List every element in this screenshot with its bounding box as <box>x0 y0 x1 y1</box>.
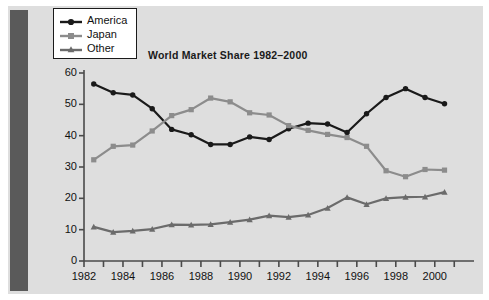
y-tick-label: 20 <box>55 191 77 203</box>
y-tick-label: 0 <box>55 254 77 266</box>
x-tick-label: 1986 <box>145 270 179 282</box>
x-tick-label: 1998 <box>379 270 413 282</box>
y-tick-label: 30 <box>55 160 77 172</box>
legend-label-other: Other <box>87 42 115 54</box>
x-tick-label: 1994 <box>301 270 335 282</box>
legend-label-japan: Japan <box>87 28 117 40</box>
x-tick-label: 1992 <box>262 270 296 282</box>
chart-title: World Market Share 1982–2000 <box>148 49 308 61</box>
y-tick-label: 40 <box>55 129 77 141</box>
figure-root: 6050403020100 19821984198619881990199219… <box>0 0 489 300</box>
legend-marker-square-icon <box>59 28 83 40</box>
legend-item-other: Other <box>59 41 131 55</box>
legend-marker-triangle-icon <box>59 42 83 54</box>
x-tick-label: 1984 <box>106 270 140 282</box>
legend-marker-circle-icon <box>59 14 83 26</box>
legend-item-japan: Japan <box>59 27 131 41</box>
x-tick-label: 2000 <box>418 270 452 282</box>
x-tick-label: 1988 <box>184 270 218 282</box>
x-tick-label: 1990 <box>223 270 257 282</box>
legend-label-america: America <box>87 14 127 26</box>
book-gutter-shadow <box>10 10 28 291</box>
y-tick-label: 60 <box>55 66 77 78</box>
y-tick-label: 10 <box>55 223 77 235</box>
y-tick-label: 50 <box>55 97 77 109</box>
legend-item-america: America <box>59 13 131 27</box>
x-tick-label: 1982 <box>67 270 101 282</box>
x-tick-label: 1996 <box>340 270 374 282</box>
chart-legend: America Japan Other <box>53 8 137 59</box>
